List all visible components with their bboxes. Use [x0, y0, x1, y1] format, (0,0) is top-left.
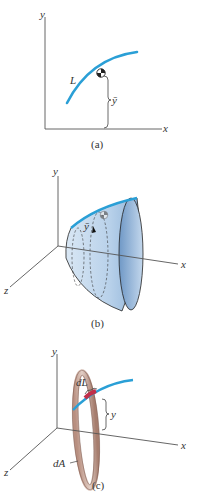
- z-axis: [10, 428, 57, 470]
- figure-b: y z x ȳ (b): [3, 165, 186, 330]
- caption-b: (b): [91, 317, 104, 330]
- z-axis-label: z: [3, 466, 9, 478]
- y-axis-label: y: [52, 165, 58, 177]
- x-axis-label: x: [180, 439, 186, 451]
- z-axis-label: z: [3, 284, 9, 296]
- brace-ybar: [104, 76, 111, 128]
- x-axis-label: x: [180, 258, 186, 270]
- x-axis-label: x: [162, 122, 168, 134]
- figure-a: y x L ȳ (a): [39, 8, 168, 151]
- diagram-canvas: y x L ȳ (a) y z x: [0, 0, 198, 492]
- curve-label-L: L: [69, 74, 76, 86]
- caption-c: (c): [92, 479, 105, 492]
- z-axis: [10, 246, 58, 287]
- surface-end-cap: [119, 198, 143, 310]
- y-axis-label: y: [39, 8, 45, 20]
- ybar-label: ȳ: [111, 94, 118, 106]
- caption-a: (a): [91, 138, 104, 151]
- figure-c: y z x dL y dA (c): [3, 345, 186, 492]
- centroid-icon: [100, 211, 108, 219]
- centroid-icon: [97, 69, 105, 77]
- dL-label: dL: [76, 376, 88, 388]
- dA-label: dA: [53, 457, 66, 469]
- y-axis-label: y: [51, 345, 57, 357]
- ring-element-dA: [72, 371, 100, 488]
- brace-y: [102, 399, 109, 430]
- y-distance-label: y: [110, 408, 116, 420]
